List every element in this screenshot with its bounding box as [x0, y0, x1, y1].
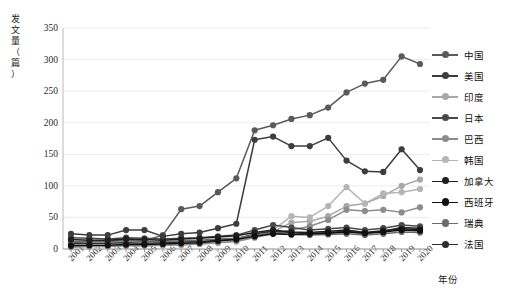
- series-point: [123, 236, 129, 242]
- legend-item-8[interactable]: 瑞典: [432, 213, 518, 234]
- legend-label: 美国: [464, 69, 484, 83]
- series-point: [68, 243, 74, 249]
- series-point: [417, 167, 423, 173]
- series-point: [380, 169, 386, 175]
- series-point: [252, 233, 258, 239]
- legend-marker-icon: [432, 197, 458, 207]
- legend-item-4[interactable]: 巴西: [432, 128, 518, 149]
- series-point: [380, 207, 386, 213]
- series-point: [380, 190, 386, 196]
- series-point: [307, 143, 313, 149]
- legend-marker-icon: [432, 176, 458, 186]
- legend-dot-icon: [442, 135, 449, 142]
- legend-item-5[interactable]: 韩国: [432, 149, 518, 170]
- series-point: [362, 230, 368, 236]
- series-point: [123, 227, 129, 233]
- legend-label: 韩国: [464, 153, 484, 167]
- line-chart: 发文量（篇） 050100150200250300350 20012002200…: [0, 0, 519, 306]
- series-point: [252, 137, 258, 143]
- series-point: [105, 232, 111, 238]
- chart-legend: 中国美国印度日本巴西韩国加拿大西班牙瑞典法国: [432, 44, 518, 255]
- series-point: [417, 61, 423, 67]
- series-line: [71, 137, 420, 237]
- series-point: [215, 189, 221, 195]
- legend-item-0[interactable]: 中国: [432, 44, 518, 65]
- series-point: [343, 229, 349, 235]
- series-point: [325, 203, 331, 209]
- legend-item-3[interactable]: 日本: [432, 107, 518, 128]
- series-point: [417, 228, 423, 234]
- series-point: [362, 168, 368, 174]
- series-point: [362, 80, 368, 86]
- legend-label: 中国: [464, 48, 484, 62]
- series-point: [380, 229, 386, 235]
- series-point: [178, 231, 184, 237]
- series-point: [233, 175, 239, 181]
- legend-dot-icon: [442, 156, 449, 163]
- series-point: [178, 206, 184, 212]
- legend-item-1[interactable]: 美国: [432, 65, 518, 86]
- series-point: [252, 127, 258, 133]
- series-point: [288, 116, 294, 122]
- series-point: [270, 122, 276, 128]
- series-point: [233, 221, 239, 227]
- legend-label: 印度: [464, 90, 484, 104]
- legend-marker-icon: [432, 218, 458, 228]
- series-point: [325, 104, 331, 110]
- series-point: [196, 240, 202, 246]
- legend-item-2[interactable]: 印度: [432, 86, 518, 107]
- series-point: [86, 232, 92, 238]
- series-point: [123, 241, 129, 247]
- series-point: [399, 209, 405, 215]
- series-point: [399, 146, 405, 152]
- series-point: [270, 231, 276, 237]
- series-point: [399, 227, 405, 233]
- legend-marker-icon: [432, 50, 458, 60]
- series-point: [196, 203, 202, 209]
- legend-label: 加拿大: [464, 174, 494, 188]
- legend-item-6[interactable]: 加拿大: [432, 171, 518, 192]
- legend-marker-icon: [432, 113, 458, 123]
- legend-label: 西班牙: [464, 195, 494, 209]
- legend-marker-icon: [432, 134, 458, 144]
- legend-dot-icon: [442, 93, 449, 100]
- legend-label: 法国: [464, 237, 484, 251]
- series-point: [399, 183, 405, 189]
- series-point: [178, 240, 184, 246]
- series-point: [68, 236, 74, 242]
- series-point: [215, 225, 221, 231]
- legend-marker-icon: [432, 239, 458, 249]
- series-point: [307, 231, 313, 237]
- legend-item-7[interactable]: 西班牙: [432, 192, 518, 213]
- legend-item-9[interactable]: 法国: [432, 234, 518, 255]
- series-point: [362, 208, 368, 214]
- series-point: [362, 200, 368, 206]
- legend-label: 日本: [464, 111, 484, 125]
- series-point: [160, 241, 166, 247]
- legend-dot-icon: [442, 177, 449, 184]
- series-point: [417, 176, 423, 182]
- series-point: [288, 143, 294, 149]
- legend-marker-icon: [432, 71, 458, 81]
- series-point: [325, 230, 331, 236]
- series-point: [105, 242, 111, 248]
- series-point: [141, 241, 147, 247]
- series-point: [343, 207, 349, 213]
- legend-dot-icon: [442, 72, 449, 79]
- legend-dot-icon: [442, 198, 449, 205]
- series-point: [288, 213, 294, 219]
- series-point: [343, 89, 349, 95]
- legend-label: 瑞典: [464, 216, 484, 230]
- series-point: [141, 227, 147, 233]
- series-point: [86, 242, 92, 248]
- series-point: [307, 214, 313, 220]
- legend-marker-icon: [432, 155, 458, 165]
- series-point: [399, 53, 405, 59]
- series-point: [343, 184, 349, 190]
- series-point: [215, 238, 221, 244]
- series-point: [325, 135, 331, 141]
- legend-dot-icon: [442, 114, 449, 121]
- legend-dot-icon: [442, 51, 449, 58]
- x-axis-label: 年份: [438, 272, 458, 286]
- legend-label: 巴西: [464, 132, 484, 146]
